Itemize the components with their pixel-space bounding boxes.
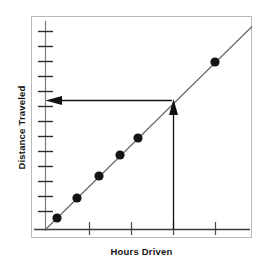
data-point	[52, 213, 61, 222]
data-point	[72, 193, 81, 202]
data-point	[210, 57, 219, 66]
x-axis-label: Hours Driven	[31, 246, 252, 257]
data-point	[94, 171, 103, 180]
data-point	[115, 150, 124, 159]
chart-figure: Distance Traveled Hours Driven	[0, 0, 263, 268]
x-axis-ticks	[90, 222, 216, 235]
horizontal-arrow-head	[46, 96, 63, 105]
vertical-reference-arrow	[169, 99, 178, 229]
y-axis-label: Distance Traveled	[16, 73, 27, 183]
data-point	[133, 133, 142, 142]
data-points	[52, 57, 219, 222]
horizontal-reference-arrow	[46, 96, 173, 105]
chart-canvas	[0, 0, 263, 268]
